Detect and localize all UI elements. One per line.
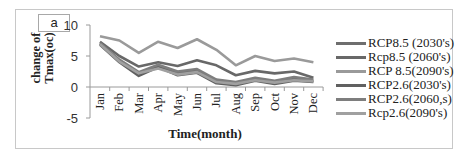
legend-label: Rcp2.6(2090's) (368, 105, 447, 121)
legend-swatch-icon (336, 70, 366, 73)
legend-item: RCP2.6(2060,s) (336, 92, 454, 106)
legend-item: RCP 8.5(2090's) (336, 64, 454, 78)
legend-item: Rcp2.6(2090's) (336, 106, 454, 120)
legend-item: RCP2.6(2030's) (336, 78, 454, 92)
y-tick-label: 10 (64, 18, 78, 33)
y-tick-label: 5 (71, 49, 78, 64)
legend-swatch-icon (336, 42, 366, 45)
legend-swatch-icon (336, 98, 366, 101)
chart-legend: RCP8.5 (2030's)Rcp8.5 (2060's)RCP 8.5(20… (336, 36, 454, 120)
x-tick-label: Mar (132, 92, 146, 114)
legend-swatch-icon (336, 112, 366, 115)
x-tick-label: Jan (93, 92, 107, 109)
x-tick-label: Dec (306, 93, 320, 114)
legend-item: RCP8.5 (2030's) (336, 36, 454, 50)
legend-item: Rcp8.5 (2060's) (336, 50, 454, 64)
series-line (100, 36, 313, 65)
x-tick-label: Oct (268, 92, 282, 111)
x-tick-label: Aug (229, 92, 243, 114)
x-tick-label: Nov (287, 92, 301, 114)
legend-swatch-icon (336, 56, 366, 59)
y-tick-label: -5 (66, 111, 78, 126)
x-tick-label: Jul (209, 92, 223, 107)
x-tick-label: Jun (190, 92, 204, 110)
x-tick-label: Sep (248, 93, 262, 112)
y-tick-label: 0 (71, 80, 78, 95)
x-tick-label: May (171, 92, 185, 116)
legend-swatch-icon (336, 84, 366, 87)
x-tick-label: Feb (112, 93, 126, 112)
x-tick-label: Apr (151, 92, 165, 112)
